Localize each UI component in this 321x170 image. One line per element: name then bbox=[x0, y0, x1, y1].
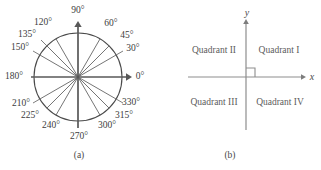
right-angle-marker bbox=[246, 68, 255, 77]
quadrant-1-label: Quadrant I bbox=[259, 46, 300, 56]
panel-a-caption: (a) bbox=[74, 151, 85, 161]
angle-label-300: 300° bbox=[98, 121, 116, 131]
angle-label-225: 225° bbox=[21, 111, 39, 121]
quadrant-svg bbox=[160, 0, 321, 145]
panel-b-quadrants: y x Quadrant II Quadrant I Quadrant III … bbox=[160, 0, 321, 170]
x-axis-arrowhead bbox=[126, 73, 132, 80]
angle-label-240: 240° bbox=[42, 121, 60, 131]
panel-b-caption: (b) bbox=[224, 151, 235, 161]
angle-label-150: 150° bbox=[11, 43, 29, 53]
angle-label-330: 330° bbox=[122, 98, 140, 108]
angle-label-30: 30° bbox=[126, 44, 139, 54]
angle-label-120: 120° bbox=[34, 18, 52, 28]
figure-root: 90° 120° 135° 150° 180° 210° 225° 240° 2… bbox=[0, 0, 321, 170]
angle-label-0: 0° bbox=[136, 72, 145, 82]
angle-label-210: 210° bbox=[12, 99, 30, 109]
cartesian-axes bbox=[188, 24, 301, 130]
y-axis-arrowhead bbox=[243, 19, 249, 24]
y-axis-label: y bbox=[245, 8, 249, 18]
angle-label-45: 45° bbox=[120, 31, 133, 41]
angle-label-60: 60° bbox=[104, 19, 117, 29]
angle-label-135: 135° bbox=[18, 30, 36, 40]
panel-a-polar-angles: 90° 120° 135° 150° 180° 210° 225° 240° 2… bbox=[0, 0, 160, 170]
panel-b-graphic bbox=[160, 0, 321, 145]
angle-label-180: 180° bbox=[5, 72, 23, 82]
y-axis-arrowhead bbox=[74, 21, 81, 27]
angle-label-315: 315° bbox=[115, 111, 133, 121]
quadrant-3-label: Quadrant III bbox=[190, 98, 237, 108]
angle-label-90: 90° bbox=[71, 6, 84, 16]
quadrant-2-label: Quadrant II bbox=[192, 46, 236, 56]
angle-label-270: 270° bbox=[70, 132, 88, 142]
quadrant-4-label: Quadrant IV bbox=[256, 98, 304, 108]
x-axis-arrowhead bbox=[301, 74, 306, 80]
polar-axes bbox=[31, 27, 126, 128]
x-axis-label: x bbox=[310, 72, 314, 82]
